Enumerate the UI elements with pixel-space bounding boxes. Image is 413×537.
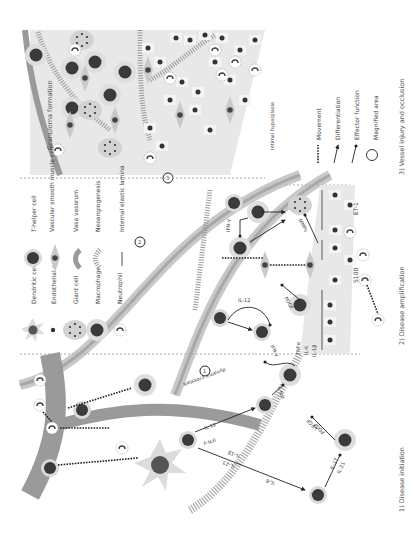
- svg-text:2: 2: [138, 239, 141, 245]
- legend-label-magnified-area: Magnified area: [372, 95, 380, 140]
- svg-text:IFN-γ: IFN-γ: [225, 219, 232, 232]
- neoangiogenesis: [195, 190, 210, 310]
- legend-label-neutrophil: Neutrophil: [116, 272, 124, 304]
- dendritic-cell-icon: [21, 318, 45, 342]
- panel-disease-initiation: Th IL-12 IFN-γ IL-1β IL-23 IL-6 Th1 Th17…: [30, 341, 356, 510]
- legend-cell-types: Dendritic cell Endothelial cell Giant ce…: [21, 146, 126, 342]
- panel-vessel-injury: Granuloma formation Intimal hyperplasia: [25, 30, 276, 175]
- svg-text:IL-1β: IL-1β: [227, 449, 241, 460]
- legend-label-effector-function: Effector function: [353, 90, 360, 140]
- svg-text:Th: Th: [184, 437, 191, 443]
- svg-text:IL-6: IL-6: [303, 346, 309, 355]
- legend-arrow-types: Movement Differentiation Effector functi…: [315, 90, 380, 163]
- label-et1: ET-1: [352, 202, 359, 215]
- dendritic-cell: [134, 439, 186, 491]
- panel-title-vessel-injury: 3) Vessel injury and occlusion: [398, 79, 406, 175]
- svg-text:IL-12: IL-12: [203, 421, 217, 431]
- t-helper-cell-icon: [24, 249, 42, 267]
- legend-label-neoangiogenesis: Neoangiogenesis: [94, 181, 102, 232]
- movement-path: [58, 458, 138, 465]
- macrophage-icon: [86, 319, 108, 341]
- neoangiogenesis-icon: [96, 250, 101, 268]
- legend-label-vsmc: Vascular smooth muscle cell: [48, 146, 55, 232]
- label-granuloma-formation: Granuloma formation: [46, 80, 54, 150]
- magnified-area-icon: [367, 150, 378, 161]
- legend-label-movement: Movement: [315, 108, 322, 140]
- svg-text:Th17: Th17: [310, 492, 324, 498]
- svg-text:Th1: Th1: [230, 200, 240, 206]
- legend-label-giant-cell: Giant cell: [72, 275, 79, 304]
- neutrophil-icon: [114, 324, 126, 336]
- legend-label-internal-elastic-lamina: Internal elastic lamina: [118, 165, 125, 232]
- svg-text:IL-12: IL-12: [238, 297, 250, 303]
- svg-text:IL-1β: IL-1β: [311, 345, 318, 357]
- svg-text:Th1: Th1: [259, 402, 269, 408]
- label-s100: S100: [352, 268, 359, 283]
- artery-wall: [20, 175, 330, 395]
- giant-cell-icon: [63, 320, 87, 340]
- legend-label-t-helper-cell: T-helper cell: [30, 195, 38, 233]
- legend-label-vasa-vasorum: Vasa vasorum: [72, 190, 79, 232]
- legend-label-macrophage: Macrophage: [94, 267, 102, 304]
- panel-title-disease-amplification: 2) Disease amplification: [398, 266, 406, 345]
- movement-path: [367, 285, 378, 314]
- label-intimal-hyperplasia: Intimal hyperplasia: [269, 102, 276, 150]
- endothelial-cell-icon: [51, 328, 55, 332]
- legend-label-differentiation: Differentiation: [334, 97, 341, 140]
- svg-text:IL-23: IL-23: [222, 460, 236, 470]
- svg-text:TNFα: TNFα: [295, 341, 301, 356]
- vasculitis-pathogenesis-figure: Granuloma formation Intimal hyperplasia …: [0, 0, 413, 537]
- vasa-vasorum-icon: [76, 250, 81, 268]
- effector-function-icon: [352, 146, 356, 163]
- svg-text:IL-6: IL-6: [265, 478, 276, 487]
- differentiation-icon: [334, 145, 338, 163]
- panel-title-disease-initiation: 1) Disease initiation: [398, 447, 406, 512]
- svg-text:IFN-γ: IFN-γ: [268, 344, 281, 359]
- legend-label-dendritic-cell: Dendritic cell: [30, 264, 37, 304]
- svg-text:1: 1: [203, 368, 206, 374]
- svg-text:IFN-γ: IFN-γ: [202, 436, 217, 447]
